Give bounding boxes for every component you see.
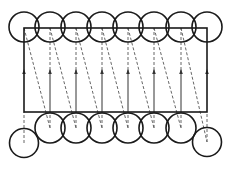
bounding-rectangle	[24, 28, 207, 112]
top-circle-row	[9, 12, 222, 42]
arrow-up-icon	[126, 69, 130, 74]
circle-path-diagram	[0, 0, 231, 174]
arrow-up-icon	[74, 69, 78, 74]
bottom-circle-row	[10, 113, 222, 158]
arrow-up-icon	[152, 69, 156, 74]
diagonal-dash-line	[181, 28, 207, 142]
solid-arrow-lines	[22, 69, 209, 112]
arrow-up-icon	[179, 69, 183, 74]
arrow-up-icon	[48, 69, 52, 74]
dashed-guide-lines	[24, 28, 207, 143]
arrow-up-icon	[100, 69, 104, 74]
